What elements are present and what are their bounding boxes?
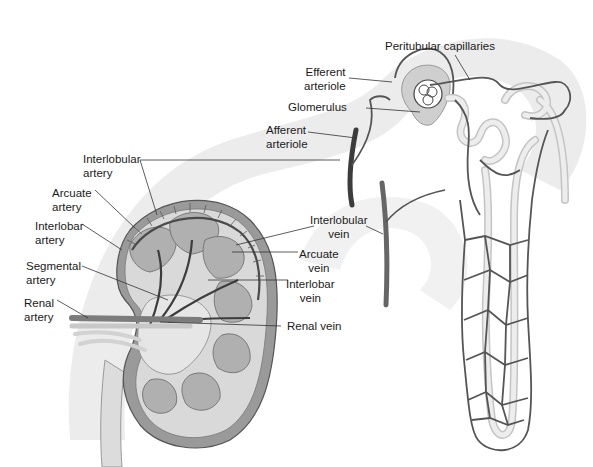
- label-renal-vein: Renal vein: [287, 319, 341, 333]
- label-afferent-arteriole: Afferent arteriole: [266, 123, 308, 151]
- label-interlobar-artery: Interlobar artery: [35, 219, 84, 247]
- renal-circulation-diagram: Peritubular capillaries Efferent arterio…: [0, 0, 593, 467]
- label-arcuate-artery: Arcuate artery: [52, 186, 92, 214]
- label-arcuate-vein: Arcuate vein: [299, 247, 339, 275]
- label-segmental-artery: Segmental artery: [26, 259, 81, 287]
- label-interlobular-artery: Interlobular artery: [83, 152, 141, 180]
- diagram-artwork: [0, 0, 593, 467]
- label-efferent-arteriole: Efferent arteriole: [304, 65, 346, 93]
- label-interlobular-vein: Interlobular vein: [310, 213, 368, 241]
- kidney-illustration: [72, 200, 277, 467]
- label-renal-artery: Renal artery: [24, 296, 54, 324]
- label-glomerulus: Glomerulus: [288, 100, 347, 114]
- nephron-illustration: [395, 49, 570, 451]
- label-interlobar-vein: Interlobar vein: [286, 277, 335, 305]
- label-peritubular-capillaries: Peritubular capillaries: [385, 39, 495, 53]
